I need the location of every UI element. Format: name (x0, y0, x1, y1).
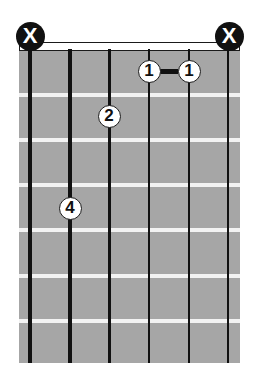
string-line (148, 49, 151, 363)
finger-marker: 4 (59, 197, 82, 220)
chord-diagram: XX1124 (0, 0, 254, 391)
fret-line (19, 93, 240, 97)
finger-marker: 1 (138, 60, 161, 83)
string-line (227, 49, 229, 363)
fret-line (19, 228, 240, 232)
fret-line (19, 183, 240, 187)
fretboard (19, 51, 240, 363)
mute-marker-icon: X (16, 22, 45, 51)
string-line (28, 49, 32, 363)
fret-line (19, 138, 240, 142)
finger-marker: 1 (178, 60, 201, 83)
barre-connector (160, 69, 178, 74)
fret-line (19, 319, 240, 323)
mute-marker-icon: X (215, 22, 244, 51)
nut (19, 42, 240, 51)
string-line (108, 49, 111, 363)
fret-line (19, 274, 240, 278)
string-line (188, 49, 190, 363)
finger-marker: 2 (98, 105, 121, 128)
